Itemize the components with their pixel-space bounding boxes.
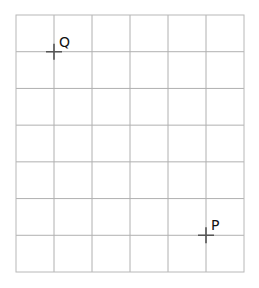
coordinate-grid-diagram: Q P (0, 0, 259, 288)
point-p: P (198, 217, 219, 243)
point-label-q: Q (59, 34, 70, 50)
points-layer: Q P (46, 34, 219, 244)
point-label-p: P (211, 217, 219, 233)
grid-lines (16, 15, 244, 272)
point-q: Q (46, 34, 70, 60)
